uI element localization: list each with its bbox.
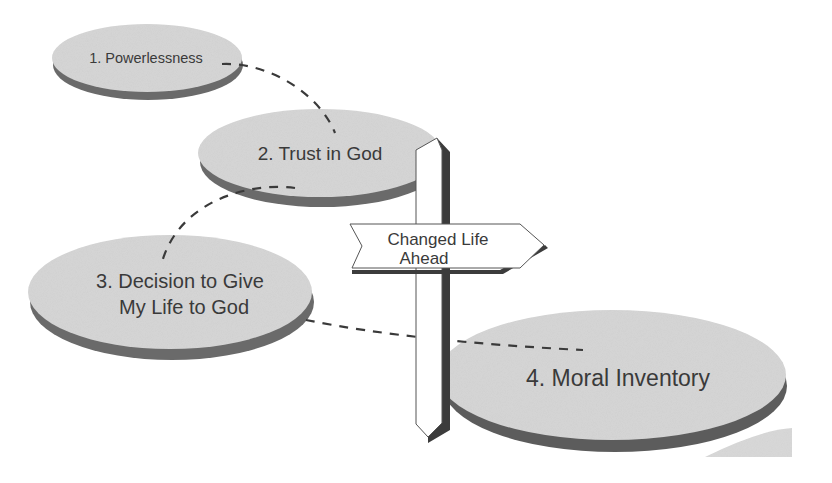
signpost-line-1: Changed Life (387, 230, 488, 249)
step-label-3-line1: 3. Decision to Give (96, 270, 264, 292)
step-disk-1: 1. Powerlessness (52, 24, 243, 100)
step-label-2: 2. Trust in God (258, 143, 383, 164)
step-disk-3: 3. Decision to Give My Life to God (28, 235, 314, 360)
step-label-1: 1. Powerlessness (89, 50, 203, 66)
step-disk-2: 2. Trust in God (198, 109, 444, 207)
step-label-3-line2: My Life to God (119, 296, 249, 318)
step-label-4: 4. Moral Inventory (526, 365, 711, 391)
signpost-line-2: Ahead (399, 249, 448, 268)
step-disk-4: 4. Moral Inventory (438, 310, 787, 452)
diagram-canvas: 1. Powerlessness 2. Trust in God 3. Deci… (0, 0, 832, 483)
